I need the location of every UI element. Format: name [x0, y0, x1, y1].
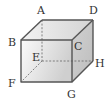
vertex-label-g: G — [67, 88, 76, 101]
vertex-label-e: E — [32, 51, 40, 64]
cube-figure: A D B C E H F G — [0, 0, 112, 102]
vertex-label-c: C — [74, 40, 82, 53]
vertex-label-b: B — [8, 36, 16, 49]
vertex-label-a: A — [36, 4, 46, 17]
vertex-label-h: H — [95, 57, 105, 70]
vertex-label-d: D — [89, 4, 98, 17]
cube-diagram: A D B C E H F G — [0, 0, 112, 102]
vertex-label-f: F — [8, 77, 16, 90]
